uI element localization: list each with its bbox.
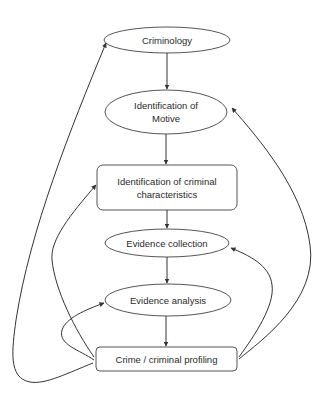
motive-text-line2: Motive: [152, 112, 180, 125]
node-motive-label: Identification of Motive: [105, 90, 227, 134]
node-evidence-analysis-label: Evidence analysis: [105, 284, 231, 316]
node-characteristics-label: Identification of criminal characteristi…: [97, 165, 237, 210]
characteristics-text-line1: Identification of criminal: [117, 175, 216, 188]
criminology-text: Criminology: [142, 34, 192, 47]
motive-text-line1: Identification of: [134, 99, 198, 112]
node-evidence-collection-label: Evidence collection: [105, 229, 229, 257]
node-criminology-label: Criminology: [104, 27, 230, 53]
edge-profiling-to-criminology: [13, 43, 106, 382]
edge-profiling-to-characteristics: [52, 185, 96, 357]
profiling-text: Crime / criminal profiling: [116, 353, 218, 366]
edge-profiling-to-motive: [232, 108, 311, 359]
node-profiling-label: Crime / criminal profiling: [96, 347, 237, 371]
evidence-analysis-text: Evidence analysis: [130, 294, 206, 307]
evidence-collection-text: Evidence collection: [126, 237, 207, 250]
characteristics-text-line2: characteristics: [137, 188, 198, 201]
edge-profiling-to-collection: [231, 248, 272, 357]
